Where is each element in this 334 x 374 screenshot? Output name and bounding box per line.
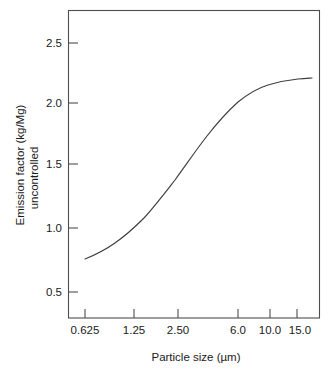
x-tick-label-15.0: 15.0 (289, 324, 311, 336)
chart-figure: 2.5 2.0 1.5 1.0 0.5 0.625 1.25 2.50 6.0 … (0, 0, 334, 374)
x-tick-label-2.50: 2.50 (167, 324, 189, 336)
x-tick-label-6.0: 6.0 (230, 324, 246, 336)
y-tick-label-2.0: 2.0 (46, 97, 62, 109)
y-axis-ticks (69, 43, 79, 292)
y-tick-label-1.0: 1.0 (46, 222, 62, 234)
x-axis-tick-labels: 0.625 1.25 2.50 6.0 10.0 15.0 (71, 324, 312, 336)
plot-frame (69, 11, 320, 319)
emission-factor-line-chart: 2.5 2.0 1.5 1.0 0.5 0.625 1.25 2.50 6.0 … (0, 0, 334, 374)
y-axis-tick-labels: 2.5 2.0 1.5 1.0 0.5 (46, 37, 62, 298)
y-tick-label-2.5: 2.5 (46, 37, 62, 49)
y-tick-label-1.5: 1.5 (46, 158, 62, 170)
x-axis-ticks (85, 309, 297, 318)
x-tick-label-10.0: 10.0 (259, 324, 281, 336)
y-axis-title-line1: Emission factor (kg/Mg) (14, 104, 26, 225)
y-axis-title-line2: uncontrolled (28, 147, 40, 210)
emission-factor-curve (85, 78, 312, 259)
x-tick-label-0.625: 0.625 (71, 324, 100, 336)
x-axis-title: Particle size (µm) (151, 351, 240, 363)
x-tick-label-1.25: 1.25 (123, 324, 145, 336)
y-tick-label-0.5: 0.5 (46, 286, 62, 298)
